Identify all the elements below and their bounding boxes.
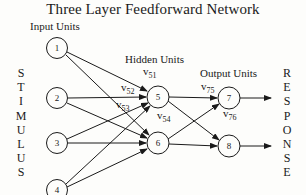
edge-1-5 (67, 52, 147, 91)
edge-5-7 (169, 97, 217, 98)
node-label: 1 (55, 43, 60, 53)
network-diagram: 1 2 3 4 5 6 7 8 v51 v52 v53 v54 v75 v76 (0, 0, 306, 195)
weight-label-v52: v52 (121, 81, 135, 96)
node-label: 3 (55, 138, 60, 148)
node-label: 7 (227, 93, 232, 103)
weight-label-v54: v54 (157, 109, 171, 124)
weight-label-v51: v51 (143, 65, 157, 80)
edge-4-6 (67, 149, 147, 187)
edge-4-5 (66, 106, 150, 184)
edge-1-6 (66, 55, 149, 135)
edge-6-8 (169, 144, 217, 146)
weight-label-v53: v53 (116, 98, 130, 113)
weight-label-v75: v75 (201, 80, 215, 95)
node-label: 8 (227, 141, 232, 151)
edge-2-5 (68, 97, 146, 98)
node-label: 6 (156, 138, 161, 148)
node-label: 5 (156, 92, 161, 102)
node-label: 2 (55, 93, 60, 103)
node-label: 4 (55, 185, 60, 195)
